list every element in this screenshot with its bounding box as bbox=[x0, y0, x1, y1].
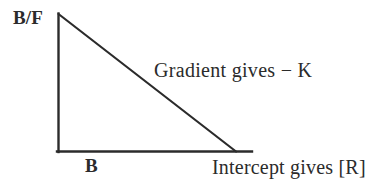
scatchard-line bbox=[59, 14, 237, 152]
scatchard-plot-figure: B/F B Gradient gives − K Intercept gives… bbox=[0, 0, 386, 183]
intercept-annotation: Intercept gives [R] bbox=[212, 157, 366, 177]
x-axis-label: B bbox=[85, 156, 98, 175]
gradient-annotation: Gradient gives − K bbox=[154, 60, 312, 80]
y-axis-label: B/F bbox=[13, 8, 43, 27]
